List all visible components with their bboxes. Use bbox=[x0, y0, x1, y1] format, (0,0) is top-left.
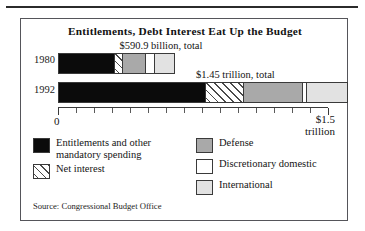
figure-page: Entitlements, Debt Interest Eat Up the B… bbox=[0, 0, 365, 231]
axis-tick bbox=[58, 108, 59, 115]
x-axis bbox=[58, 107, 328, 108]
axis-tick-label-zero: 0 bbox=[54, 115, 60, 127]
bar-segment-entitlements bbox=[59, 83, 205, 102]
bar-1980 bbox=[58, 53, 175, 74]
legend-swatch-net-interest bbox=[33, 164, 50, 179]
axis-max-value: $1.5 bbox=[293, 114, 335, 126]
axis-label-1980: 1980 bbox=[25, 54, 55, 65]
axis-tick bbox=[76, 108, 77, 113]
legend-swatch-discretionary bbox=[196, 159, 213, 174]
legend-swatch-defense bbox=[196, 138, 213, 153]
bar-segment-net-interest bbox=[205, 83, 243, 102]
source-note: Source: Congressional Budget Office bbox=[33, 201, 161, 211]
bar-segment-defense bbox=[122, 54, 145, 73]
axis-tick bbox=[220, 108, 221, 113]
axis-label-1992: 1992 bbox=[25, 84, 55, 95]
axis-tick bbox=[292, 108, 293, 113]
axis-tick bbox=[148, 108, 149, 113]
legend: Entitlements and other mandatory spendin… bbox=[33, 137, 339, 199]
axis-tick bbox=[166, 108, 167, 113]
legend-item-international: International bbox=[196, 179, 273, 195]
legend-item-entitlements: Entitlements and other mandatory spendin… bbox=[33, 137, 151, 160]
axis-tick bbox=[130, 108, 131, 113]
axis-tick bbox=[274, 108, 275, 113]
legend-item-discretionary: Discretionary domestic bbox=[196, 158, 317, 174]
bar-segment-international bbox=[306, 83, 347, 102]
axis-tick bbox=[184, 108, 185, 113]
chart-frame: Entitlements, Debt Interest Eat Up the B… bbox=[20, 18, 348, 221]
axis-tick bbox=[238, 108, 239, 113]
axis-tick bbox=[94, 108, 95, 113]
legend-label-net-interest: Net interest bbox=[56, 163, 105, 175]
legend-label-defense: Defense bbox=[219, 137, 253, 149]
bar-segment-entitlements bbox=[59, 54, 114, 73]
bar-1992 bbox=[58, 82, 348, 103]
legend-item-defense: Defense bbox=[196, 137, 253, 153]
top-divider bbox=[6, 6, 358, 8]
bar-segment-defense bbox=[243, 83, 302, 102]
bar-segment-net-interest bbox=[114, 54, 122, 73]
axis-tick bbox=[310, 108, 311, 113]
legend-label-entitlements: Entitlements and other mandatory spendin… bbox=[56, 137, 151, 160]
axis-tick-label-max: $1.5 trillion bbox=[293, 114, 335, 137]
axis-max-unit: trillion bbox=[293, 126, 335, 138]
legend-label-discretionary: Discretionary domestic bbox=[219, 158, 317, 170]
legend-swatch-international bbox=[196, 180, 213, 195]
axis-tick bbox=[112, 108, 113, 113]
bar-segment-discretionary bbox=[145, 54, 154, 73]
axis-tick bbox=[202, 108, 203, 113]
legend-label-international: International bbox=[219, 179, 273, 191]
legend-swatch-entitlements bbox=[33, 138, 50, 153]
legend-item-net-interest: Net interest bbox=[33, 163, 105, 179]
axis-tick bbox=[256, 108, 257, 113]
bar-segment-international bbox=[154, 54, 174, 73]
